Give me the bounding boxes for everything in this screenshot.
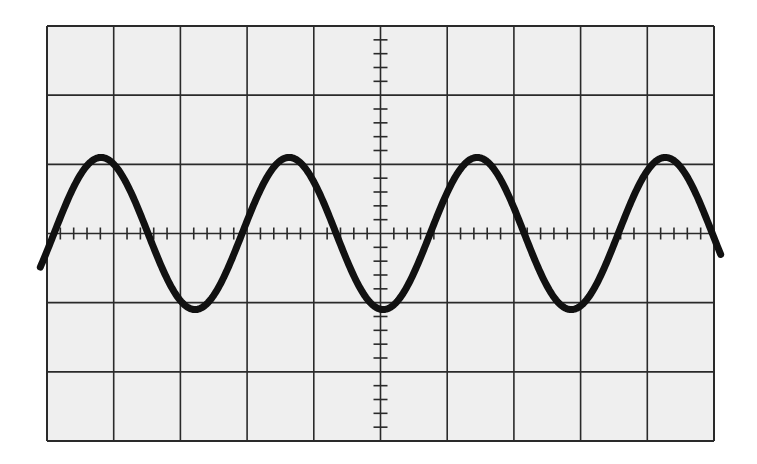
- oscilloscope-display: [0, 0, 757, 464]
